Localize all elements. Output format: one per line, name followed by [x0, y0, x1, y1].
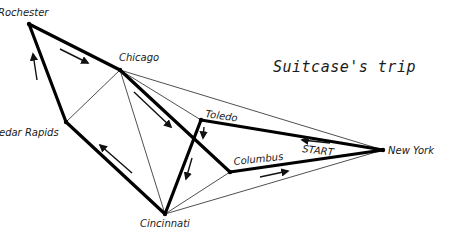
- city-node-toledo: [199, 118, 203, 122]
- arrow-icon: [134, 92, 171, 127]
- city-label-cincinnati: Cincinnati: [140, 218, 190, 229]
- suitcase-trip-diagram: RochesterChicagoCedar RapidsToledoColumb…: [0, 0, 457, 248]
- route-chicago-toledo: [120, 70, 201, 120]
- city-node-rochester: [27, 22, 31, 26]
- city-label-cedar-rapids: Cedar Rapids: [0, 127, 59, 138]
- start-label: START: [302, 143, 335, 158]
- city-node-cedar-rapids: [64, 120, 68, 124]
- city-node-chicago: [118, 68, 122, 72]
- diagram-title: Suitcase's trip: [273, 58, 416, 76]
- route-cedar-rapids-chicago: [66, 70, 120, 122]
- route-cincinnati-toledo: [165, 120, 201, 214]
- arrow-icon: [203, 127, 204, 138]
- city-node-new-york: [381, 148, 385, 152]
- route-toledo-new-york: [201, 120, 383, 150]
- city-label-chicago: Chicago: [119, 52, 159, 63]
- arrow-icon: [33, 54, 37, 80]
- city-node-columbus: [228, 170, 232, 174]
- city-label-new-york: New York: [388, 145, 435, 156]
- city-node-cincinnati: [163, 212, 167, 216]
- arrow-icon: [260, 171, 288, 177]
- route-chicago-new-york: [120, 70, 383, 150]
- route-cedar-rapids-cincinnati: [66, 122, 165, 214]
- city-label-rochester: Rochester: [0, 7, 49, 18]
